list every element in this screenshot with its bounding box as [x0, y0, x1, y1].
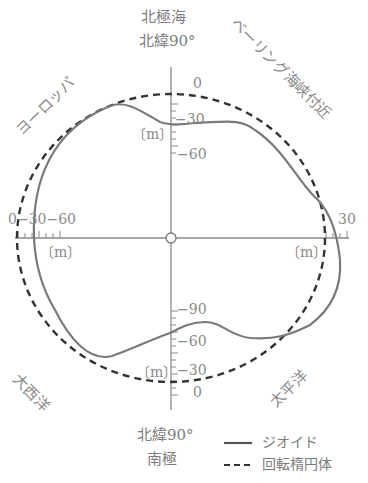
legend-geoid: ジオイド: [262, 435, 318, 449]
origin-marker: [166, 233, 176, 243]
tick-top-60: −60: [177, 147, 207, 161]
tick-bottom-60: −60: [177, 334, 207, 348]
north-lat-bottom-label: 北緯90°: [137, 428, 194, 443]
unit-right: 〔m〕: [286, 245, 327, 259]
tick-right-30: 30: [338, 212, 356, 226]
tick-left: 0−30−60: [8, 212, 76, 226]
north-sea-label: 北極海: [141, 10, 186, 25]
tick-bottom-0: 0: [193, 385, 202, 399]
geoid-diagram: [0, 0, 368, 483]
legend-ellipsoid: 回転楕円体: [262, 457, 332, 471]
tick-bottom-90: −90: [177, 302, 207, 316]
unit-top: 〔m〕: [132, 127, 173, 141]
geoid-curve: [34, 104, 340, 357]
left-ticks: [18, 231, 60, 238]
tick-top-0: 0: [193, 76, 202, 90]
north-lat-top-label: 北緯90°: [139, 34, 196, 49]
unit-left: 〔m〕: [40, 245, 81, 259]
tick-top-30: −30: [175, 112, 205, 126]
south-pole-label: 南極: [147, 452, 177, 467]
unit-bottom: 〔m〕: [136, 365, 177, 379]
tick-bottom-30: −30: [177, 363, 207, 377]
